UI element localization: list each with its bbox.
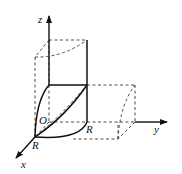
r-label-y: R xyxy=(85,123,93,135)
origin-label: O xyxy=(39,114,47,126)
diagram: z y x O R R xyxy=(0,0,182,174)
y-axis-label: y xyxy=(153,123,159,135)
r-label-x: R xyxy=(31,139,39,151)
x-axis-label: x xyxy=(20,158,26,170)
cylinder-intersection-figure: z y x O R R xyxy=(0,0,182,174)
dashed-guides xyxy=(35,40,135,139)
z-axis-label: z xyxy=(37,13,43,25)
